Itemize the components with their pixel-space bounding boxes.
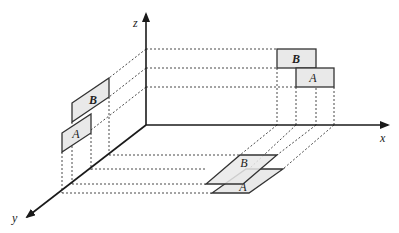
xz-projection: B A: [277, 49, 334, 87]
y-axis: [27, 125, 146, 217]
yz-label-a: A: [71, 127, 80, 141]
projection-diagram: B A B A A B z x y: [0, 0, 399, 233]
z-axis-label: z: [132, 16, 138, 30]
xy-projection: A B: [206, 155, 283, 194]
xy-label-b: B: [240, 156, 248, 170]
yz-label-b: B: [88, 93, 97, 107]
yz-projection: B A: [62, 78, 109, 152]
xz-label-b: B: [291, 52, 300, 66]
y-axis-label: y: [11, 211, 18, 225]
x-axis-label: x: [379, 131, 386, 145]
xz-label-a: A: [308, 71, 317, 85]
